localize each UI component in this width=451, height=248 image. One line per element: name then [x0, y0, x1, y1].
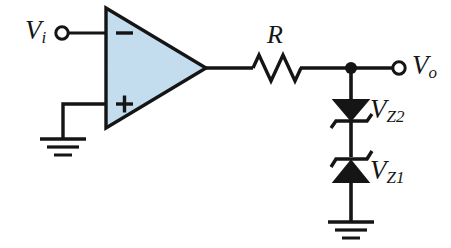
input-label: Vi — [25, 17, 46, 46]
zener-upper-triangle — [334, 100, 368, 120]
input-terminal-circle — [56, 27, 68, 39]
ground-symbol-zener — [328, 222, 374, 238]
zener-upper-label: VZ2 — [370, 96, 404, 125]
zener-lower-label-symbol: V — [370, 155, 387, 185]
zener-upper-label-symbol: V — [370, 94, 387, 124]
wire-noninverting-to-ground — [63, 104, 107, 137]
input-label-symbol: V — [25, 15, 42, 45]
zener-lower-label: VZ1 — [370, 157, 404, 186]
resistor-label-text: R — [267, 20, 283, 49]
zener-upper-label-subscript: Z2 — [387, 107, 405, 126]
circuit-diagram-canvas: Vi Vo R VZ2 VZ1 — [0, 0, 451, 248]
output-terminal-circle — [393, 62, 405, 74]
zener-lower-label-subscript: Z1 — [387, 168, 405, 187]
output-label-subscript: o — [429, 63, 438, 82]
ground-symbol-opamp — [40, 139, 86, 155]
output-label: Vo — [412, 52, 437, 81]
resistor-label: R — [267, 22, 283, 48]
input-label-subscript: i — [42, 28, 47, 47]
zener-lower-triangle — [334, 161, 368, 182]
opamp-triangle-body — [106, 8, 206, 128]
output-label-symbol: V — [412, 50, 429, 80]
resistor-zigzag-icon — [253, 55, 301, 81]
